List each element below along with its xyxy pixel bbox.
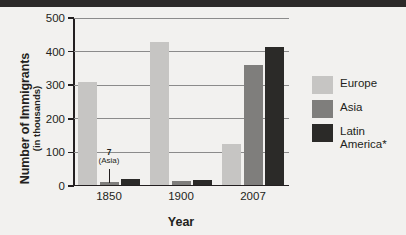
plot-area: 01002003004005001850190020077(Asia): [73, 18, 289, 186]
bar: [78, 82, 97, 184]
y-axis-tick: [68, 84, 74, 86]
legend-swatch: [312, 124, 333, 142]
y-axis-tick-label: 0: [59, 180, 65, 192]
legend-item: Latin America*: [312, 124, 404, 151]
x-axis-title: Year: [73, 215, 289, 229]
y-axis-tick: [68, 152, 74, 154]
y-axis-tick-label: 300: [46, 79, 65, 91]
x-axis-tick-label: 1900: [168, 190, 194, 202]
legend-swatch: [312, 76, 333, 94]
y-axis-title: Number of Immigrants (in thousands): [19, 29, 42, 209]
x-axis-tick-label: 1850: [96, 190, 122, 202]
annotation-leader-line: [109, 169, 110, 183]
bar: [222, 144, 241, 184]
legend-label: Asia: [340, 100, 362, 114]
y-axis-tick: [68, 185, 74, 187]
legend-item: Europe: [312, 76, 404, 94]
y-axis-tick-label: 200: [46, 113, 65, 125]
legend-label: Europe: [340, 76, 377, 90]
gridline: [73, 51, 289, 52]
y-axis-title-line2: (in thousands): [33, 29, 43, 209]
y-axis-line: [73, 18, 75, 186]
chart-figure: Number of Immigrants (in thousands) 0100…: [0, 0, 406, 235]
gridline: [73, 18, 289, 19]
y-axis-tick-label: 100: [46, 146, 65, 158]
y-axis-tick-label: 400: [46, 46, 65, 58]
top-edge-band: [0, 0, 406, 7]
x-axis-line: [73, 185, 289, 187]
y-axis-tick: [68, 17, 74, 19]
bar: [121, 179, 140, 184]
bar: [172, 181, 191, 184]
y-axis-tick-label: 500: [46, 12, 65, 24]
x-axis-tick-label: 2007: [240, 190, 266, 202]
legend-swatch: [312, 100, 333, 118]
chart-legend: EuropeAsiaLatin America*: [312, 76, 404, 157]
legend-label: Latin America*: [340, 124, 404, 151]
y-axis-tick: [68, 51, 74, 53]
bar: [150, 42, 169, 184]
bar: [193, 180, 212, 185]
bar: [244, 65, 263, 184]
bar: [265, 47, 284, 185]
legend-item: Asia: [312, 100, 404, 118]
y-axis-tick: [68, 118, 74, 120]
annotation-series: (Asia): [87, 157, 131, 165]
data-annotation: 7(Asia): [87, 148, 131, 165]
